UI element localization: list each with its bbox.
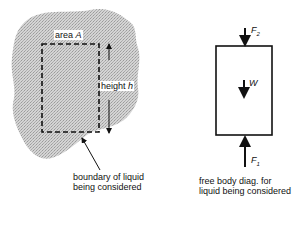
force-f2-subscript: 2 (257, 31, 260, 37)
boundary-caption-line2: being considered (73, 182, 144, 192)
area-symbol: A (76, 30, 82, 40)
boundary-pointer-arrow (82, 138, 100, 170)
free-body-caption: free body diag. for liquid being conside… (199, 176, 291, 196)
boundary-caption-line1: boundary of liquid (73, 172, 144, 182)
height-text: height (101, 81, 126, 91)
boundary-caption: boundary of liquid being considered (73, 172, 144, 192)
weight-label: W (249, 78, 258, 88)
force-f2-label: F2 (251, 25, 260, 39)
free-body-caption-line2: liquid being considered (199, 186, 291, 196)
force-f1-subscript: 1 (257, 161, 260, 167)
height-label: height h (100, 81, 134, 91)
area-text: area (55, 30, 73, 40)
free-body-caption-line1: free body diag. for (199, 176, 291, 186)
force-f1-label: F1 (251, 155, 260, 169)
height-symbol: h (128, 81, 133, 91)
area-label: area A (54, 30, 83, 40)
weight-symbol: W (249, 78, 258, 88)
